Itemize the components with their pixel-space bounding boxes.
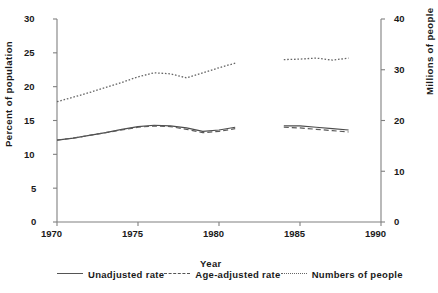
chart-legend: Unadjusted rate Age-adjusted rate Number… xyxy=(57,266,387,282)
legend-item-age-adjusted-rate: Age-adjusted rate xyxy=(164,269,280,280)
dashed-line-icon xyxy=(164,273,190,276)
tick-marks xyxy=(53,19,385,226)
legend-label-unadjusted-rate: Unadjusted rate xyxy=(88,269,164,280)
chart-container: Percent of population Millions of people… xyxy=(0,0,438,293)
series-line-1-segment-0 xyxy=(57,126,235,140)
legend-label-age-adjusted-rate: Age-adjusted rate xyxy=(195,269,280,280)
legend-item-unadjusted-rate: Unadjusted rate xyxy=(57,269,164,280)
axis-lines xyxy=(57,19,381,222)
plot-area xyxy=(0,0,438,293)
solid-line-icon xyxy=(57,273,83,276)
series-line-2-segment-1 xyxy=(284,58,349,60)
series-line-2-segment-0 xyxy=(57,63,235,102)
data-series-layer xyxy=(57,58,349,140)
legend-item-numbers-of-people: Numbers of people xyxy=(281,269,403,280)
dotted-line-icon xyxy=(281,273,307,276)
legend-label-numbers-of-people: Numbers of people xyxy=(312,269,403,280)
